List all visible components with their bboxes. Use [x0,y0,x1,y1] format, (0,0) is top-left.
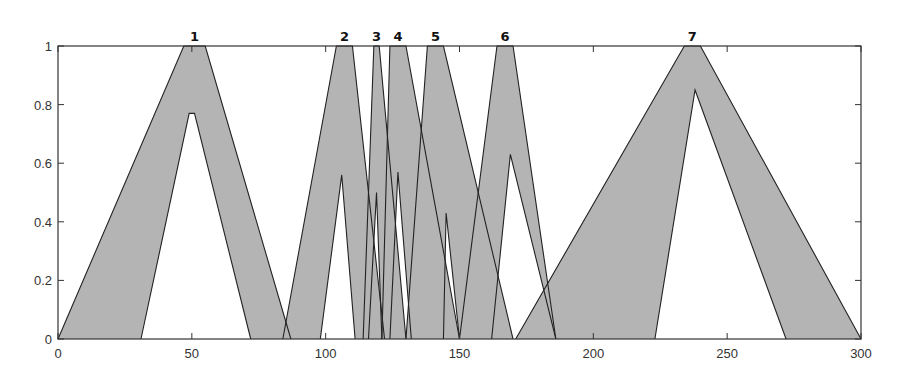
x-tick-label: 300 [850,346,872,361]
mf-label-2: 2 [340,29,349,44]
membership-function-chart: 050100150200250300 00.20.40.60.81 123456… [0,0,904,374]
y-tick-label: 0 [45,332,52,347]
mf-label-3: 3 [372,29,381,44]
x-tick-label: 0 [54,346,61,361]
x-tick-label: 250 [716,346,738,361]
fou-bands [58,46,861,339]
y-tick-label: 0.4 [34,215,52,230]
chart-container: 050100150200250300 00.20.40.60.81 123456… [0,0,904,374]
x-axis-tick-labels: 050100150200250300 [54,346,871,361]
y-tick-label: 0.6 [34,156,52,171]
y-axis-tick-labels: 00.20.40.60.81 [34,39,52,347]
mf-label-6: 6 [500,29,509,44]
y-tick-label: 1 [45,39,52,54]
fou-band-1 [58,46,291,339]
membership-function-labels: 1234567 [190,29,697,44]
x-tick-label: 150 [449,346,471,361]
mf-label-5: 5 [431,29,440,44]
x-tick-label: 50 [185,346,199,361]
x-tick-label: 100 [315,346,337,361]
mf-label-1: 1 [190,29,199,44]
x-tick-label: 200 [582,346,604,361]
mf-label-7: 7 [688,29,697,44]
fou-band-7 [516,46,861,339]
y-tick-label: 0.2 [34,273,52,288]
mf-label-4: 4 [393,29,402,44]
y-tick-label: 0.8 [34,98,52,113]
